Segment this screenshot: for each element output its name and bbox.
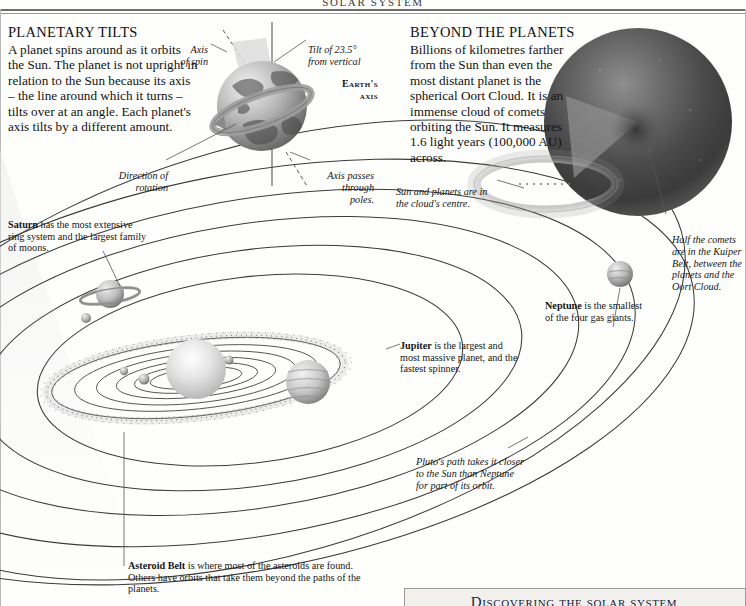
label-axis-of-spin: Axis of spin	[150, 26, 208, 86]
annotation-pluto-path: Pluto's path takes it closer to the Sun …	[416, 438, 546, 509]
book-page: SOLAR SYSTEM	[0, 0, 746, 606]
running-head: SOLAR SYSTEM	[0, 0, 746, 8]
saturn-sprite	[79, 280, 140, 308]
label-sun-and-planets-centre: Sun and planets are in the cloud's centr…	[396, 168, 502, 228]
annotation-neptune: Neptune is the smallest of the four gas …	[545, 300, 643, 323]
label-axis-passes-through-poles: Axis passes through poles.	[312, 152, 374, 223]
discovering-panel-title: Discovering the solar system	[404, 594, 744, 606]
label-direction-of-rotation: Direction of rotation	[96, 152, 168, 212]
header-rule-thin	[0, 13, 746, 14]
sun-sprite	[166, 339, 226, 399]
beyond-the-planets-body: Billions of kilometres farther from the …	[410, 42, 578, 165]
beyond-the-planets-heading: BEYOND THE PLANETS	[410, 24, 578, 41]
section-beyond-the-planets: BEYOND THE PLANETS Billions of kilometre…	[410, 24, 578, 165]
annotation-asteroid-belt: Asteroid Belt is where most of the aster…	[128, 560, 378, 595]
jupiter-sprite	[286, 360, 330, 404]
annotation-jupiter: Jupiter is the largest and most massive …	[400, 340, 520, 375]
label-kuiper-belt: Half the comets are in the Kuiper Belt, …	[672, 216, 744, 311]
header-rule-thick	[0, 9, 746, 11]
annotation-jupiter-term: Jupiter	[400, 340, 432, 351]
page-edge-left	[0, 9, 1, 606]
uranus-sprite	[81, 313, 91, 323]
annotation-saturn-term: Saturn	[8, 219, 38, 230]
annotation-saturn: Saturn has the most extensive ring syste…	[8, 219, 148, 254]
annotation-neptune-term: Neptune	[545, 300, 582, 311]
annotation-asteroid-belt-term: Asteroid Belt	[128, 560, 185, 571]
inner-planet-sprite	[120, 367, 128, 375]
inner-planet-sprite	[225, 356, 234, 365]
leader-lines	[103, 251, 620, 566]
neptune-sprite	[607, 261, 633, 287]
inner-planet-sprite	[139, 374, 150, 385]
label-earths-axis: Earth's axis	[300, 60, 378, 119]
